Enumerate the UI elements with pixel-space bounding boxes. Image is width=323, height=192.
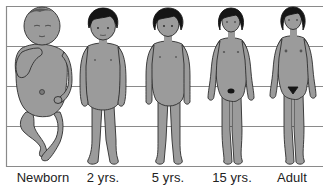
label-newborn: Newborn (17, 170, 70, 185)
diagram-canvas (0, 0, 323, 170)
figure-age-2 (80, 8, 126, 164)
label-adult: Adult (277, 170, 307, 185)
age-labels: Newborn 2 yrs. 5 yrs. 15 yrs. Adult (0, 170, 323, 190)
figure-adult (270, 7, 316, 164)
figure-age-5 (146, 8, 190, 164)
label-age-15: 15 yrs. (212, 170, 252, 185)
label-age-2: 2 yrs. (87, 170, 119, 185)
figure-newborn (15, 7, 72, 161)
body-proportions-diagram (0, 0, 323, 192)
label-age-5: 5 yrs. (152, 170, 184, 185)
figure-age-15 (208, 8, 254, 164)
